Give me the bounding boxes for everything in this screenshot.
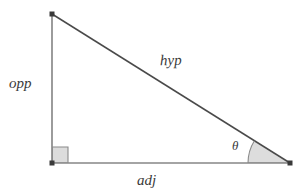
adjacent-side-label: adj [137,173,156,188]
hypotenuse-side-line [52,14,290,163]
vertex-marker-apex [50,12,55,17]
triangle-svg [0,0,307,196]
hypotenuse-side-label: hyp [160,53,182,68]
vertex-marker-right-angle [50,161,55,166]
opposite-side-label: opp [9,76,32,91]
theta-angle-label: θ [232,139,238,152]
vertex-marker-theta [288,161,293,166]
triangle-figure: opp hyp adj θ [0,0,307,196]
